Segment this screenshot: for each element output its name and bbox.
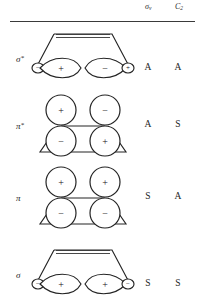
- symmetry-sigma-v-sigma: S: [141, 278, 155, 288]
- lobe-sign-bottom-right: −: [102, 208, 108, 219]
- lobe-sign-bottom-left: −: [58, 208, 64, 219]
- table-row-sigma-star: σ* − + − + A A: [0, 28, 205, 86]
- orbital-label-pi-star: π*: [16, 121, 24, 131]
- symmetry-c2-sigma-star: A: [171, 62, 185, 72]
- orbital-diagram-pi: + + − −: [28, 160, 138, 236]
- orbital-label-pi-star-asterisk: *: [21, 121, 25, 129]
- orbital-diagram-sigma-star: − + − +: [28, 28, 138, 86]
- lobe-sign-bottom-right: +: [102, 136, 108, 147]
- orbital-label-pi: π: [16, 193, 21, 203]
- lobe-sign-outer-right: +: [126, 64, 130, 72]
- table-header: σv C2: [0, 2, 205, 20]
- column-header-sigma-v: σv: [145, 2, 151, 11]
- lobe-sign-top-right: +: [102, 177, 108, 188]
- symmetry-sigma-v-pi: S: [141, 191, 155, 201]
- table-row-pi: π + + − − S A: [0, 160, 205, 236]
- mo-symmetry-table: σv C2 σ* − + − +: [0, 0, 205, 304]
- lobe-sign-outer-right: −: [126, 280, 130, 288]
- header-divider-rule: [10, 21, 195, 22]
- orbital-label-sigma-star-asterisk: *: [20, 54, 24, 62]
- column-header-sigma-v-subscript: v: [149, 5, 151, 11]
- orbital-label-sigma: σ: [16, 270, 20, 280]
- orbital-label-pi-text: π: [16, 193, 21, 203]
- lobe-sign-inner-right: −: [102, 63, 108, 74]
- lobe-sign-top-left: +: [58, 105, 64, 116]
- lobe-sign-inner-right: +: [102, 279, 108, 290]
- lobe-sign-top-left: +: [58, 177, 64, 188]
- symmetry-c2-pi-star: S: [171, 119, 185, 129]
- lobe-sign-inner-left: +: [58, 63, 64, 74]
- column-header-c2-subscript: 2: [180, 5, 183, 11]
- symmetry-c2-pi: A: [171, 191, 185, 201]
- symmetry-c2-sigma: S: [171, 278, 185, 288]
- column-header-c2: C2: [175, 2, 183, 11]
- lobe-sign-inner-left: +: [58, 279, 64, 290]
- lobe-sign-top-right: −: [102, 105, 108, 116]
- orbital-label-sigma-text: σ: [16, 270, 20, 280]
- symmetry-sigma-v-pi-star: A: [141, 119, 155, 129]
- orbital-diagram-pi-star: + − − +: [28, 88, 138, 160]
- symmetry-sigma-v-sigma-star: A: [141, 62, 155, 72]
- table-row-sigma: σ − + + − S S: [0, 244, 205, 302]
- orbital-diagram-sigma: − + + −: [28, 244, 138, 302]
- orbital-label-sigma-star: σ*: [16, 54, 24, 64]
- lobe-sign-bottom-left: −: [58, 136, 64, 147]
- table-row-pi-star: π* + − − + A S: [0, 88, 205, 160]
